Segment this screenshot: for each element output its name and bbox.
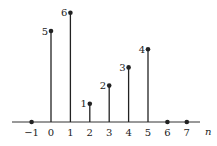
x-tick-label: 5 <box>145 127 151 138</box>
stem-marker <box>29 120 34 125</box>
stem-marker <box>165 120 170 125</box>
x-tick-label: −1 <box>24 127 39 138</box>
stem-marker <box>68 11 73 16</box>
x-tick-label: 3 <box>106 127 112 138</box>
stem-marker <box>107 83 112 88</box>
stem-marker <box>146 47 151 52</box>
stems: 561234 <box>29 7 189 124</box>
stem-marker <box>49 29 54 34</box>
stem-marker <box>126 65 131 70</box>
stem-marker <box>185 120 190 125</box>
x-tick-label: 4 <box>125 127 131 138</box>
data-label: 3 <box>119 62 125 73</box>
data-label: 1 <box>80 98 86 109</box>
tick-labels: −101234567 <box>24 127 190 138</box>
x-tick-label: 2 <box>87 127 93 138</box>
x-axis-label: n <box>205 126 211 137</box>
x-tick-label: 7 <box>184 127 190 138</box>
stem-marker <box>88 102 93 107</box>
data-label: 6 <box>61 7 67 18</box>
data-label: 4 <box>139 44 145 55</box>
x-tick-label: 1 <box>67 127 73 138</box>
data-label: 2 <box>100 80 106 91</box>
x-tick-label: 6 <box>164 127 170 138</box>
data-label: 5 <box>42 26 48 37</box>
x-tick-label: 0 <box>48 127 54 138</box>
stem-plot: 561234 −101234567 n <box>0 0 217 146</box>
